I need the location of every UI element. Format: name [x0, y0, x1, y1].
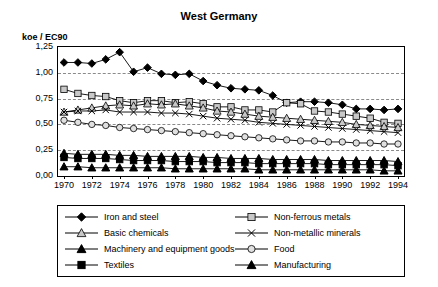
y-tick-label: 0,50 [19, 118, 53, 128]
plot-area [57, 46, 405, 177]
data-point [199, 77, 207, 85]
x-tick-label: 1978 [162, 180, 188, 190]
legend-item[interactable]: Basic chemicals [62, 225, 232, 241]
data-point [116, 124, 122, 130]
data-point [61, 117, 67, 123]
x-tick-label: 1972 [79, 180, 105, 190]
x-tick-label: 1982 [218, 180, 244, 190]
data-point [394, 105, 402, 113]
data-point [75, 119, 81, 125]
legend-marker-icon [232, 259, 274, 271]
data-point [89, 155, 95, 161]
data-point [102, 56, 110, 64]
data-point [283, 137, 289, 143]
series-line [64, 120, 398, 144]
x-tick-label: 1970 [51, 180, 77, 190]
data-point [311, 108, 317, 114]
legend-label: Textiles [104, 260, 134, 270]
data-point [89, 92, 95, 98]
data-point [74, 59, 82, 67]
data-point [61, 86, 67, 92]
data-point [283, 100, 289, 106]
data-point [88, 60, 96, 68]
y-tick-label: 0,75 [19, 93, 53, 103]
data-point [200, 130, 206, 136]
data-point [339, 111, 345, 117]
data-point [367, 140, 373, 146]
legend-marker-icon [62, 243, 104, 255]
chart-legend: Iron and steelNon-ferrous metalsBasic ch… [57, 205, 405, 277]
data-point [353, 113, 359, 119]
data-point [61, 154, 67, 160]
y-tick-label: 1,25 [19, 41, 53, 51]
x-tick-label: 1984 [246, 180, 272, 190]
legend-marker-icon [62, 227, 104, 239]
legend-label: Manufacturing [274, 260, 331, 270]
legend-marker-icon [62, 211, 104, 223]
data-point [103, 122, 109, 128]
data-point [116, 156, 122, 162]
data-point [270, 136, 276, 142]
data-point [381, 141, 387, 147]
legend-marker-icon [232, 227, 274, 239]
legend-item[interactable]: Non-metallic minerals [232, 225, 402, 241]
data-point [144, 126, 150, 132]
data-point [311, 138, 317, 144]
data-point [185, 70, 193, 78]
x-tick-label: 1994 [385, 180, 411, 190]
data-point [60, 59, 68, 67]
data-point [297, 101, 303, 107]
legend-marker-icon [232, 243, 274, 255]
data-point [130, 125, 136, 131]
data-point [269, 92, 277, 100]
data-point [352, 105, 360, 113]
data-point [325, 99, 333, 107]
data-point [227, 84, 235, 92]
data-point [256, 135, 262, 141]
chart-container: West Germany koe / EC90 0,000,250,500,75… [0, 0, 438, 287]
x-tick-label: 1990 [329, 180, 355, 190]
x-tick-label: 1974 [107, 180, 133, 190]
data-point [89, 121, 95, 127]
data-point [186, 129, 192, 135]
data-point [214, 132, 220, 138]
data-point [75, 90, 81, 96]
series-line [64, 52, 398, 110]
data-point [116, 48, 124, 56]
legend-item[interactable]: Food [232, 241, 402, 257]
data-point [130, 68, 138, 76]
data-point [255, 87, 263, 95]
x-tick-label: 1988 [302, 180, 328, 190]
data-point [172, 71, 180, 79]
legend-marker-icon [232, 211, 274, 223]
y-tick-label: 1,00 [19, 67, 53, 77]
legend-item[interactable]: Non-ferrous metals [232, 209, 402, 225]
legend-item[interactable]: Manufacturing [232, 257, 402, 273]
data-point [339, 139, 345, 145]
legend-label: Machinery and equipment goods [104, 244, 235, 254]
data-point [242, 134, 248, 140]
y-tick-label: 0,25 [19, 144, 53, 154]
data-point [325, 109, 331, 115]
data-point [241, 86, 249, 94]
legend-item[interactable]: Textiles [62, 257, 232, 273]
data-point [339, 101, 347, 109]
data-point [172, 128, 178, 134]
chart-title: West Germany [0, 10, 438, 22]
data-point [297, 138, 303, 144]
data-point [75, 155, 81, 161]
legend-label: Non-ferrous metals [274, 212, 351, 222]
legend-marker-icon [62, 259, 104, 271]
data-point [144, 64, 152, 72]
legend-item[interactable]: Machinery and equipment goods [62, 241, 232, 257]
x-tick-label: 1992 [357, 180, 383, 190]
y-tick-label: 0,00 [19, 170, 53, 180]
x-tick-label: 1980 [190, 180, 216, 190]
legend-item[interactable]: Iron and steel [62, 209, 232, 225]
data-point [395, 141, 401, 147]
data-point [228, 133, 234, 139]
legend-label: Iron and steel [104, 212, 159, 222]
data-point [158, 127, 164, 133]
series-lines [58, 47, 404, 176]
data-point [353, 140, 359, 146]
